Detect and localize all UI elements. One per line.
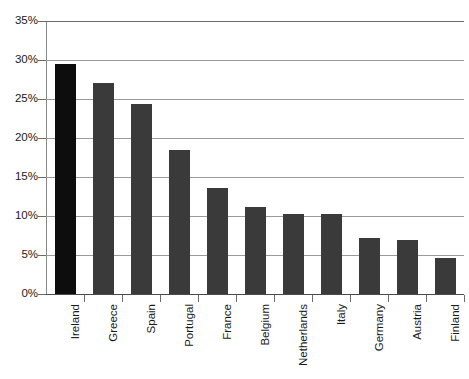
y-axis-tick-mark — [38, 177, 46, 178]
bar — [245, 207, 266, 294]
x-axis-category-label: Austria — [412, 304, 424, 340]
y-axis-tick-label: 20% — [0, 132, 38, 144]
y-axis-tick-label: 15% — [0, 171, 38, 183]
y-axis-tick-mark — [38, 216, 46, 217]
plot-area — [46, 21, 464, 294]
y-axis-tick-mark — [38, 255, 46, 256]
x-axis-line — [46, 294, 464, 295]
y-axis-tick-label: 30% — [0, 54, 38, 66]
x-axis-category-label: Finland — [450, 304, 462, 342]
y-axis-tick-mark — [38, 99, 46, 100]
bar — [359, 238, 380, 294]
x-axis-tick-mark — [84, 295, 85, 302]
y-axis-tick-labels: 0%5%10%15%20%25%30%35% — [0, 0, 38, 379]
y-axis-tick-label: 0% — [0, 288, 38, 300]
bar — [93, 83, 114, 294]
x-axis-tick-mark — [236, 295, 237, 302]
x-axis-tick-mark — [274, 295, 275, 302]
bar — [397, 240, 418, 294]
x-axis-tick-mark — [312, 295, 313, 302]
bar — [435, 258, 456, 294]
x-axis-category-label: France — [222, 304, 234, 340]
y-axis-tick-mark — [38, 294, 46, 295]
x-axis-category-label: Italy — [336, 304, 348, 325]
x-axis-category-label: Ireland — [70, 304, 82, 339]
bar — [283, 214, 304, 294]
x-axis-category-label: Netherlands — [298, 304, 310, 366]
bar — [321, 214, 342, 294]
y-axis-tick-label: 35% — [0, 15, 38, 27]
y-axis-tick-label: 25% — [0, 93, 38, 105]
x-axis-tick-mark — [426, 295, 427, 302]
x-axis-category-label: Greece — [108, 304, 120, 342]
y-axis-tick-mark — [38, 60, 46, 61]
x-axis-tick-mark — [160, 295, 161, 302]
bar — [55, 64, 76, 294]
y-axis-tick-label: 5% — [0, 249, 38, 261]
x-axis-category-label: Belgium — [260, 304, 272, 346]
x-axis-tick-mark — [388, 295, 389, 302]
y-axis-tick-mark — [38, 138, 46, 139]
x-axis-category-label: Portugal — [184, 304, 196, 347]
x-axis-tick-mark — [350, 295, 351, 302]
x-axis-tick-mark — [122, 295, 123, 302]
x-axis-tick-mark — [198, 295, 199, 302]
gridline — [46, 60, 464, 61]
bar — [207, 188, 228, 294]
y-axis-tick-mark — [38, 21, 46, 22]
y-axis-tick-label: 10% — [0, 210, 38, 222]
x-axis-tick-mark — [464, 295, 465, 302]
plot-top-border — [46, 21, 464, 22]
bar — [169, 150, 190, 294]
x-axis-category-label: Spain — [146, 304, 158, 333]
bar — [131, 104, 152, 294]
bar-chart: 0%5%10%15%20%25%30%35% IrelandGreeceSpai… — [0, 0, 469, 379]
x-axis-category-label: Germany — [374, 304, 386, 351]
